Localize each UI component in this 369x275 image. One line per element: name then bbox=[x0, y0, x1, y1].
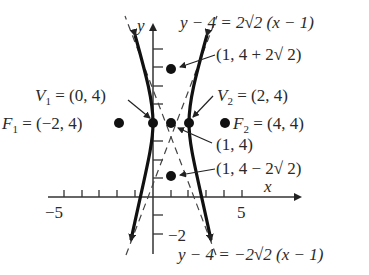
x-tick-label-neg5: −5 bbox=[45, 204, 63, 221]
center-label: (1, 4) bbox=[216, 136, 253, 153]
point-center bbox=[166, 118, 176, 128]
f2-label: F2 = (4, 4) bbox=[233, 115, 304, 135]
f1-label: F1 = (−2, 4) bbox=[2, 115, 82, 135]
x-axis bbox=[48, 190, 300, 197]
v2-name: V bbox=[217, 86, 227, 105]
f1-name: F bbox=[2, 114, 12, 133]
f2-name: F bbox=[233, 114, 243, 133]
y-tick-label-neg2: −2 bbox=[168, 227, 186, 244]
point-f2 bbox=[220, 118, 230, 128]
asymptote-top-label: y − 4 = 2√2 (x − 1) bbox=[180, 14, 314, 31]
y-axis bbox=[153, 25, 163, 254]
v1-name: V bbox=[35, 86, 45, 105]
point-bottom-label: (1, 4 − 2√ 2) bbox=[216, 160, 302, 177]
points bbox=[114, 64, 230, 181]
point-v2 bbox=[184, 118, 194, 128]
v2-value: = (2, 4) bbox=[233, 86, 288, 105]
x-axis-label: x bbox=[264, 178, 272, 195]
point-top bbox=[166, 64, 176, 74]
point-top-label: (1, 4 + 2√ 2) bbox=[216, 46, 302, 63]
point-bottom bbox=[166, 171, 176, 181]
asymptote-bottom-label: y − 4 = −2√2 (x − 1) bbox=[178, 246, 323, 263]
y-axis-label: y bbox=[137, 17, 145, 34]
left-branch bbox=[131, 35, 153, 240]
v2-label: V2 = (2, 4) bbox=[217, 87, 288, 107]
point-f1 bbox=[114, 118, 124, 128]
v1-label: V1 = (0, 4) bbox=[35, 87, 106, 107]
x-tick-label-5: 5 bbox=[237, 204, 246, 221]
f2-value: = (4, 4) bbox=[249, 114, 304, 133]
v1-value: = (0, 4) bbox=[51, 86, 106, 105]
f1-value: = (−2, 4) bbox=[18, 114, 83, 133]
point-v1 bbox=[148, 118, 158, 128]
